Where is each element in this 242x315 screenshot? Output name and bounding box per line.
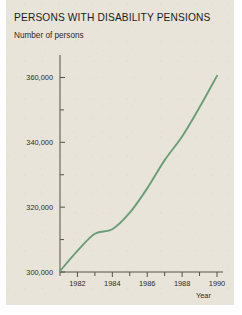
y-axis: 300,000320,000340,000360,000: [26, 55, 65, 277]
y-tick-label: 300,000: [26, 268, 53, 277]
y-tick-label: 340,000: [26, 138, 53, 147]
x-tick-label: 1984: [104, 279, 120, 288]
y-axis-tick-labels: 300,000320,000340,000360,000: [26, 73, 53, 277]
x-tick-label: 1982: [69, 279, 85, 288]
x-tick-label: 1986: [139, 279, 155, 288]
y-tick-label: 360,000: [26, 73, 53, 82]
x-axis-minor-ticks: [60, 272, 200, 276]
x-axis-title: Year: [196, 291, 211, 300]
data-series-group: [60, 76, 217, 271]
y-axis-minor-ticks: [60, 110, 64, 240]
x-tick-label: 1990: [209, 279, 225, 288]
x-axis: 19821984198619881990: [60, 272, 225, 288]
x-axis-major-ticks: [77, 272, 217, 277]
y-tick-label: 320,000: [26, 203, 53, 212]
data-series-line-0: [60, 76, 217, 271]
plot-area: 300,000320,000340,000360,000 19821984198…: [6, 0, 234, 305]
x-axis-tick-labels: 19821984198619881990: [69, 279, 225, 288]
x-tick-label: 1988: [174, 279, 190, 288]
chart-figure: PERSONS WITH DISABILITY PENSIONS Number …: [6, 0, 234, 305]
